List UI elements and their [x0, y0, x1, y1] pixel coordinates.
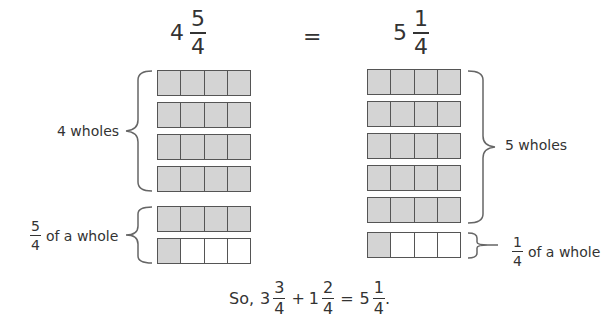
fraction-strip	[157, 102, 251, 128]
filled-cell	[391, 134, 414, 158]
filled-cell	[158, 135, 181, 159]
filled-cell	[438, 134, 460, 158]
filled-cell	[438, 198, 460, 222]
filled-cell	[368, 134, 391, 158]
filled-cell	[181, 135, 204, 159]
filled-cell	[438, 166, 460, 190]
filled-cell	[158, 207, 181, 231]
filled-cell	[205, 207, 228, 231]
empty-cell	[391, 233, 414, 257]
filled-cell	[181, 207, 204, 231]
empty-cell	[205, 239, 228, 263]
filled-cell	[415, 198, 438, 222]
five-wholes-label: 5 wholes	[505, 137, 567, 153]
fraction-strip	[157, 70, 251, 96]
left-fraction: 5 4	[190, 8, 206, 58]
term1-fraction: 3 4	[273, 280, 285, 317]
filled-cell	[228, 167, 250, 191]
left-wholes-brace	[124, 70, 154, 192]
filled-cell	[368, 198, 391, 222]
filled-cell	[181, 71, 204, 95]
filled-cell	[158, 71, 181, 95]
filled-cell	[415, 166, 438, 190]
filled-cell	[368, 70, 391, 94]
fraction-strip	[367, 197, 461, 223]
filled-cell	[415, 102, 438, 126]
five-fourths-label: 5 4 of a whole	[30, 219, 118, 252]
filled-cell	[205, 71, 228, 95]
fraction-strip	[157, 206, 251, 232]
filled-cell	[438, 102, 460, 126]
filled-cell	[415, 70, 438, 94]
label-fraction: 1 4	[512, 235, 523, 268]
one-fourth-label: 1 4 of a whole	[512, 235, 600, 268]
fraction-strip	[367, 101, 461, 127]
conclusion-equation: So, 3 3 4 + 1 2 4 = 5 1 4 .	[229, 280, 390, 317]
filled-cell	[368, 233, 391, 257]
filled-cell	[228, 71, 250, 95]
filled-cell	[391, 166, 414, 190]
filled-cell	[205, 135, 228, 159]
fraction-strip	[157, 166, 251, 192]
filled-cell	[158, 239, 181, 263]
result-fraction: 1 4	[373, 280, 385, 317]
fraction-strip	[367, 232, 461, 258]
filled-cell	[391, 102, 414, 126]
filled-cell	[158, 167, 181, 191]
filled-cell	[181, 167, 204, 191]
right-wholes-brace	[466, 70, 496, 224]
filled-cell	[158, 103, 181, 127]
fraction-strip	[157, 238, 251, 264]
empty-cell	[228, 239, 250, 263]
fraction-strip	[367, 69, 461, 95]
filled-cell	[368, 102, 391, 126]
equals-sign: =	[303, 24, 321, 49]
filled-cell	[205, 167, 228, 191]
empty-cell	[438, 233, 460, 257]
filled-cell	[391, 198, 414, 222]
left-whole: 4	[170, 20, 184, 45]
filled-cell	[181, 103, 204, 127]
filled-cell	[391, 70, 414, 94]
term2-fraction: 2 4	[322, 280, 334, 317]
filled-cell	[368, 166, 391, 190]
filled-cell	[228, 207, 250, 231]
fraction-strip	[367, 165, 461, 191]
left-mixed-number: 4 5 4	[170, 8, 206, 58]
empty-cell	[181, 239, 204, 263]
right-whole: 5	[393, 20, 407, 45]
empty-cell	[415, 233, 438, 257]
label-fraction: 5 4	[30, 219, 41, 252]
left-fraction-brace	[124, 206, 154, 264]
filled-cell	[415, 134, 438, 158]
right-fraction: 1 4	[413, 8, 429, 58]
filled-cell	[205, 103, 228, 127]
right-mixed-number: 5 1 4	[393, 8, 429, 58]
filled-cell	[228, 135, 250, 159]
filled-cell	[228, 103, 250, 127]
fraction-strip	[157, 134, 251, 160]
right-fraction-brace	[466, 232, 500, 260]
four-wholes-label: 4 wholes	[57, 123, 119, 139]
filled-cell	[438, 70, 460, 94]
fraction-strip	[367, 133, 461, 159]
